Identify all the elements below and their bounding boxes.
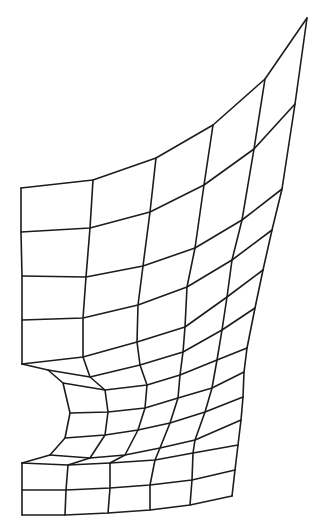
- mesh-row-line: [21, 18, 307, 188]
- mesh-left-edge-upper: [21, 188, 22, 364]
- mesh-row-line: [65, 397, 243, 438]
- mesh-column-line: [150, 125, 213, 510]
- mesh-row-line: [22, 470, 235, 490]
- mesh-notch-arc: [48, 370, 70, 455]
- mesh-row-line: [50, 420, 241, 458]
- mesh-notch-edge: [22, 455, 50, 463]
- mesh-notch-edge: [22, 364, 48, 370]
- mesh-figure: [0, 0, 320, 531]
- mesh-row-line: [22, 230, 272, 320]
- mesh-row-line: [22, 496, 232, 515]
- mesh-row-line: [22, 189, 282, 277]
- mesh-column-line: [232, 18, 307, 496]
- deformed-mesh-drawing: [0, 0, 320, 531]
- mesh-column-line: [190, 79, 265, 505]
- mesh-row-line: [22, 270, 263, 364]
- mesh-row-line: [21, 104, 295, 232]
